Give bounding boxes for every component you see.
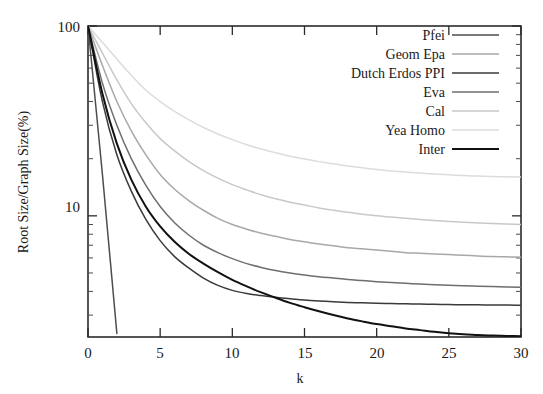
x-tick-label-30: 30 [514,345,529,361]
x-axis-title: k [297,371,304,386]
chart-container: 100 10 0 5 10 15 20 25 30 Root Size/Grap… [0,0,543,394]
legend-label: Geom Epa [386,47,446,62]
y-tick-label-10: 10 [65,199,80,215]
legend-label: Dutch Erdos PPI [351,66,445,81]
x-tick-label-15: 15 [298,345,313,361]
legend-label: Inter [419,142,446,157]
x-tick-label-25: 25 [442,345,457,361]
x-tick-label-5: 5 [156,345,164,361]
legend-label: Pfei [422,28,445,43]
x-tick-label-10: 10 [225,345,240,361]
line-chart: 100 10 0 5 10 15 20 25 30 Root Size/Grap… [0,0,543,394]
legend-label: Cal [426,104,446,119]
legend-label: Yea Homo [385,123,445,138]
x-tick-label-20: 20 [370,345,385,361]
y-tick-label-100: 100 [58,19,81,35]
legend-label: Eva [423,85,446,100]
y-axis-title: Root Size/Graph Size(%) [16,111,32,254]
x-tick-label-0: 0 [84,345,92,361]
